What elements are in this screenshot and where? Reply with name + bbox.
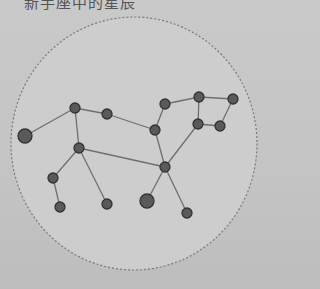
star-node-M [215,121,225,131]
star-node-H [150,125,160,135]
star-node-J [194,92,204,102]
star-node-C [102,109,112,119]
constellation-diagram [0,0,264,289]
star-node-P [182,208,192,218]
star-node-O [140,194,154,208]
star-node-L [193,119,203,129]
constellation-boundary-circle [11,17,257,270]
star-node-N [160,162,170,172]
star-node-E [48,173,58,183]
star-node-D [74,143,84,153]
star-node-B [70,103,80,113]
star-node-I [160,99,170,109]
star-node-F [55,202,65,212]
star-node-A [18,129,32,143]
star-node-G [102,199,112,209]
star-node-K [228,94,238,104]
